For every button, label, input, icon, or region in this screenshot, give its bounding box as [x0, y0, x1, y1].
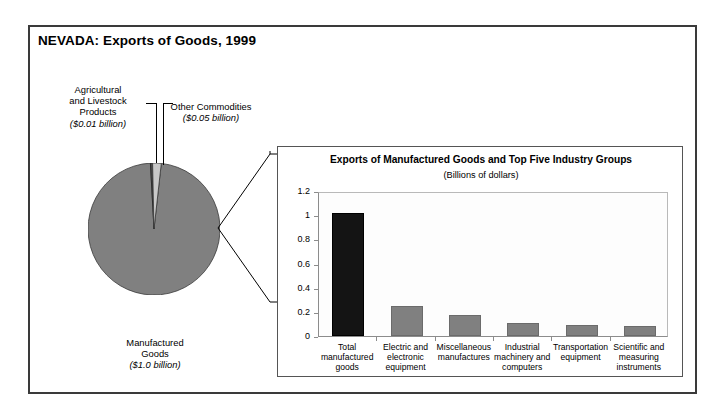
bar-3: [449, 315, 481, 336]
bar-2: [391, 306, 423, 336]
pie-label-agricultural-line2: and Livestock: [52, 95, 144, 106]
y-tick-label-0: 0: [280, 331, 310, 341]
y-tick-label-4: 0.8: [280, 234, 310, 244]
y-tick-mark-5: [314, 216, 318, 217]
bar-chart-plot-area: [318, 192, 668, 337]
y-tick-label-2: 0.4: [280, 283, 310, 293]
x-tick-mark-2: [435, 337, 436, 341]
y-tick-label-3: 0.6: [280, 259, 310, 269]
pie-label-manufactured-goods: Manufactured Goods ($1.0 billion): [92, 337, 218, 371]
x-category-label-2: Electric andelectronicequipment: [373, 342, 439, 372]
y-tick-mark-1: [314, 313, 318, 314]
x-category-label-3: Miscellaneousmanufactures: [431, 342, 497, 362]
pie-label-manufactured-line2: Goods: [92, 348, 218, 359]
figure-root: NEVADA: Exports of Goods, 1999 Agricultu…: [0, 0, 725, 418]
y-tick-mark-4: [314, 240, 318, 241]
pie-label-agricultural-value: ($0.01 billion): [70, 118, 126, 129]
pie-label-agricultural-line1: Agricultural: [52, 84, 144, 95]
bar-series: [319, 193, 667, 336]
pie-label-other-commodities: Other Commodities ($0.05 billion): [155, 101, 267, 123]
callout-connector: [210, 150, 282, 390]
y-tick-mark-0: [314, 337, 318, 338]
y-tick-mark-2: [314, 289, 318, 290]
y-tick-label-5: 1: [280, 210, 310, 220]
bar-1: [332, 213, 364, 336]
y-tick-label-1: 0.2: [280, 307, 310, 317]
page-title: NEVADA: Exports of Goods, 1999: [38, 33, 256, 48]
x-category-label-5: Transportationequipment: [548, 342, 614, 362]
pie-label-manufactured-value: ($1.0 billion): [129, 359, 180, 370]
x-category-label-6: Scientific andmeasuringinstruments: [606, 342, 672, 372]
x-tick-mark-3: [493, 337, 494, 341]
inset-subtitle: (Billions of dollars): [278, 170, 684, 180]
pie-chart: [88, 163, 220, 295]
x-category-label-1: Totalmanufacturedgoods: [314, 342, 380, 372]
y-tick-mark-3: [314, 265, 318, 266]
leader-line-other-vertical: [163, 103, 164, 165]
pie-label-agricultural: Agricultural and Livestock Products ($0.…: [52, 84, 144, 129]
y-tick-label-6: 1.2: [280, 186, 310, 196]
x-tick-mark-4: [551, 337, 552, 341]
bar-5: [566, 325, 598, 336]
x-category-label-4: Industrialmachinery andcomputers: [489, 342, 555, 372]
pie-label-manufactured-line1: Manufactured: [92, 337, 218, 348]
pie-svg: [88, 163, 220, 295]
pie-label-agricultural-line3: Products: [52, 106, 144, 117]
inset-title: Exports of Manufactured Goods and Top Fi…: [278, 154, 684, 165]
x-tick-mark-5: [610, 337, 611, 341]
y-tick-mark-6: [314, 192, 318, 193]
bar-4: [507, 323, 539, 336]
inset-panel: Exports of Manufactured Goods and Top Fi…: [277, 146, 683, 377]
bar-6: [624, 326, 656, 336]
pie-label-other-value: ($0.05 billion): [183, 112, 239, 123]
x-tick-mark-1: [376, 337, 377, 341]
leader-line-other-horizontal: [163, 103, 173, 104]
